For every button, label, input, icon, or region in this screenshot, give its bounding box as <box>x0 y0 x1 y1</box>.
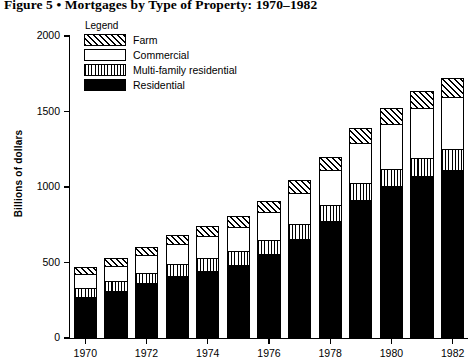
legend-items: FarmCommercialMulti-family residentialRe… <box>84 33 237 92</box>
bar-segment-residential <box>411 176 432 339</box>
bar-segment-commercial <box>442 97 463 150</box>
bar-1973 <box>166 235 189 338</box>
x-axis-tick-label: 1980 <box>368 347 414 359</box>
legend-swatch-commercial <box>84 49 126 61</box>
bar-1975 <box>227 216 250 338</box>
bar-segment-multifamily <box>320 205 341 221</box>
bar-segment-residential <box>167 276 188 339</box>
bar-segment-commercial <box>381 124 402 169</box>
bar-segment-commercial <box>75 274 96 288</box>
figure-title: Figure 5 • Mortgages by Type of Property… <box>4 0 317 13</box>
bar-segment-commercial <box>228 227 249 252</box>
x-axis-tick <box>85 339 86 344</box>
bar-1981 <box>410 91 433 338</box>
title-divider <box>0 16 470 17</box>
y-axis-tick-label: 500 <box>18 256 60 268</box>
bar-segment-residential <box>228 265 249 339</box>
x-axis-tick-label: 1982 <box>430 347 470 359</box>
bar-1976 <box>257 201 280 338</box>
legend-label-farm: Farm <box>133 34 158 46</box>
x-axis-tick <box>207 339 208 344</box>
bar-segment-commercial <box>167 244 188 264</box>
bar-1972 <box>135 247 158 338</box>
bar-segment-residential <box>320 221 341 339</box>
legend-item-farm: Farm <box>84 33 237 47</box>
y-axis-tick-label: 1500 <box>18 105 60 117</box>
bar-segment-multifamily <box>411 158 432 176</box>
bar-segment-farm <box>167 236 188 244</box>
x-axis-tick-label: 1976 <box>246 347 292 359</box>
bar-segment-farm <box>381 109 402 123</box>
bar-segment-multifamily <box>167 264 188 276</box>
bar-segment-residential <box>136 283 157 339</box>
bar-segment-commercial <box>411 108 432 158</box>
bar-segment-farm <box>136 248 157 256</box>
bar-segment-farm <box>442 79 463 96</box>
x-axis-tick-label: 1974 <box>185 347 231 359</box>
bar-segment-commercial <box>320 170 341 205</box>
bar-segment-residential <box>258 254 279 339</box>
x-axis-tick-label: 1978 <box>307 347 353 359</box>
bar-segment-multifamily <box>381 169 402 186</box>
bar-segment-farm <box>411 92 432 108</box>
bar-segment-commercial <box>258 212 279 240</box>
legend-title: Legend <box>84 20 237 31</box>
bar-segment-multifamily <box>228 251 249 265</box>
bar-1979 <box>349 128 372 338</box>
legend-swatch-farm <box>84 34 126 46</box>
bar-segment-farm <box>350 129 371 143</box>
x-axis-tick <box>330 339 331 344</box>
bar-1974 <box>196 226 219 338</box>
legend-item-commercial: Commercial <box>84 48 237 62</box>
x-axis-tick-label: 1972 <box>124 347 170 359</box>
bar-segment-farm <box>197 227 218 236</box>
x-axis-tick <box>268 339 269 344</box>
bar-segment-commercial <box>136 255 157 272</box>
legend-label-multifamily: Multi-family residential <box>133 64 237 76</box>
x-axis-tick-label: 1970 <box>62 347 108 359</box>
bar-segment-residential <box>350 200 371 339</box>
bar-segment-farm <box>258 202 279 213</box>
y-axis-label: Billions of dollars <box>13 94 24 254</box>
bar-segment-commercial <box>105 266 126 281</box>
bar-segment-commercial <box>289 193 310 225</box>
bar-segment-residential <box>442 170 463 339</box>
bar-1970 <box>74 267 97 338</box>
y-axis-tick-label: 2000 <box>18 29 60 41</box>
x-axis-tick <box>452 339 453 344</box>
bar-segment-farm <box>228 217 249 227</box>
bar-segment-multifamily <box>442 149 463 169</box>
bar-segment-farm <box>105 259 126 266</box>
bar-1971 <box>104 258 127 338</box>
bar-1978 <box>319 157 342 338</box>
bar-segment-residential <box>381 186 402 339</box>
legend: Legend FarmCommercialMulti-family reside… <box>84 20 237 93</box>
bar-segment-multifamily <box>105 281 126 291</box>
legend-label-residential: Residential <box>133 79 185 91</box>
bar-segment-multifamily <box>136 273 157 284</box>
bar-segment-residential <box>197 271 218 339</box>
y-axis-tick-label: 1000 <box>18 180 60 192</box>
bar-segment-multifamily <box>289 224 310 239</box>
bar-segment-commercial <box>197 236 218 259</box>
bar-segment-multifamily <box>197 258 218 271</box>
bar-1977 <box>288 180 311 338</box>
bar-1980 <box>380 108 403 338</box>
y-axis-tick-label: 0 <box>18 331 60 343</box>
bar-segment-farm <box>320 158 341 170</box>
bar-segment-residential <box>105 291 126 339</box>
legend-label-commercial: Commercial <box>133 49 189 61</box>
bar-segment-residential <box>289 239 310 339</box>
bar-segment-multifamily <box>350 183 371 200</box>
bar-segment-multifamily <box>75 288 96 297</box>
bar-segment-farm <box>289 181 310 192</box>
bar-segment-commercial <box>350 143 371 184</box>
bar-segment-residential <box>75 297 96 339</box>
legend-swatch-residential <box>84 79 126 91</box>
legend-swatch-multifamily <box>84 64 126 76</box>
bar-1982 <box>441 78 464 338</box>
bar-segment-multifamily <box>258 240 279 254</box>
x-axis-tick <box>391 339 392 344</box>
legend-item-multifamily: Multi-family residential <box>84 63 237 77</box>
legend-item-residential: Residential <box>84 78 237 92</box>
